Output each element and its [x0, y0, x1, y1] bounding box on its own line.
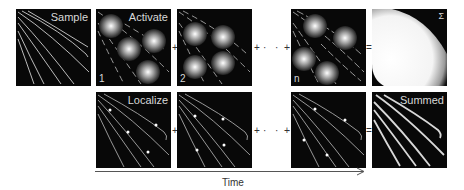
frame-index: 1	[99, 74, 105, 84]
localize-panel-n	[291, 92, 366, 168]
time-axis-line	[95, 171, 363, 172]
plus-operator: +	[254, 126, 260, 136]
plus-operator: +	[284, 126, 290, 136]
equals-operator: =	[366, 126, 372, 136]
equals-operator: =	[366, 43, 372, 53]
summed-panel: Summed	[372, 92, 447, 168]
panel-label: Summed	[400, 95, 444, 106]
activate-panel-1: Activate 1	[96, 9, 171, 86]
panel-label: Localize	[128, 95, 168, 106]
sigma-label: Σ	[438, 12, 444, 21]
activation-image	[291, 9, 366, 86]
sample-panel: Sample	[16, 9, 91, 86]
plus-operator: +	[254, 43, 260, 53]
frame-index: n	[294, 74, 300, 84]
localization-image	[177, 92, 252, 168]
frame-index: 2	[180, 74, 186, 84]
sum-panel: Σ	[372, 9, 447, 86]
summed-activation-image	[372, 9, 447, 86]
localize-panel-2	[177, 92, 252, 168]
panel-label: Sample	[51, 12, 88, 23]
activation-image	[177, 9, 252, 86]
time-axis-label: Time	[222, 177, 244, 188]
localize-panel-1: Localize	[96, 92, 171, 168]
activate-panel-n: n	[291, 9, 366, 86]
localization-image	[291, 92, 366, 168]
arrow-head-icon	[357, 167, 365, 176]
panel-label: Activate	[129, 12, 168, 23]
plus-operator: +	[284, 43, 290, 53]
activate-panel-2: 2	[177, 9, 252, 86]
